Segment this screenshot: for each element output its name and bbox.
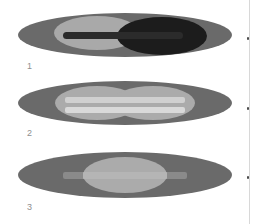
right-rule-tick-2 xyxy=(247,107,249,110)
panel-2-bright-bar-lower xyxy=(65,107,185,113)
panel-1-dark-spindle-bar xyxy=(63,32,183,39)
panel-1-label: 1 xyxy=(27,62,32,71)
panel-2-group xyxy=(18,81,232,125)
panel-3-label: 3 xyxy=(27,203,32,212)
panel-1-group xyxy=(18,13,232,57)
right-edge-rule xyxy=(249,0,250,224)
panel-2-label: 2 xyxy=(27,129,32,138)
right-rule-tick-1 xyxy=(247,37,249,40)
panel-3-group xyxy=(18,152,232,198)
panel-2-bright-bar-upper xyxy=(65,97,185,103)
panel-3-light-bar-overlay xyxy=(83,172,167,179)
figure-canvas xyxy=(0,0,253,224)
right-rule-tick-3 xyxy=(247,176,249,179)
